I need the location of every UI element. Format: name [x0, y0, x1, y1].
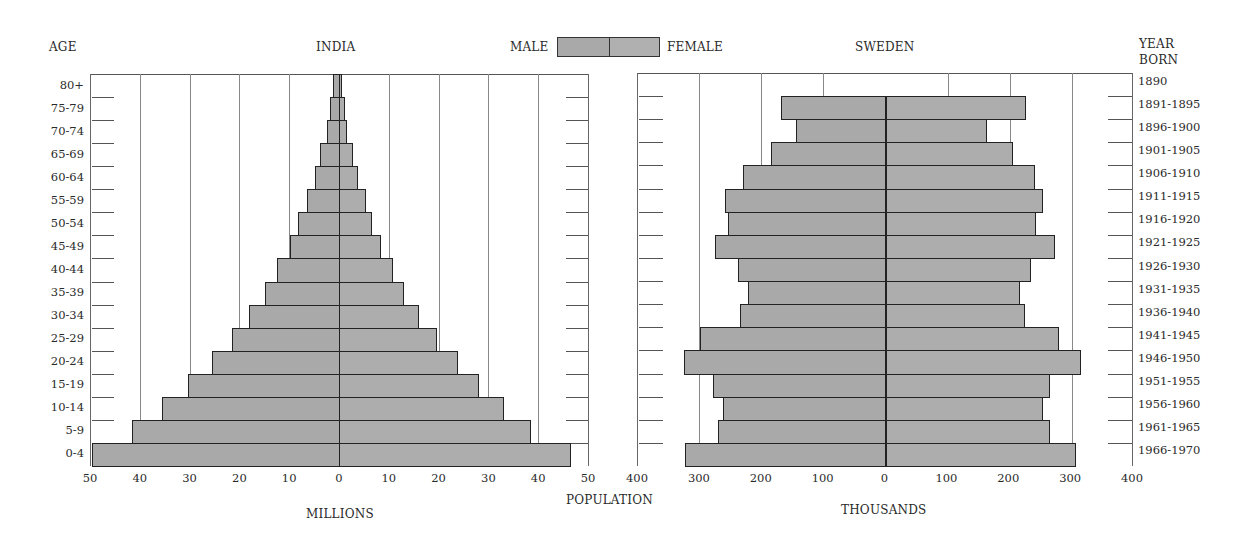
- x-axis-tick-label: 0: [335, 471, 342, 485]
- row-tick: [1108, 258, 1132, 259]
- row-tick: [92, 305, 114, 306]
- male-bar: [713, 374, 886, 398]
- male-bar: [781, 96, 886, 120]
- row-tick: [639, 304, 663, 305]
- female-bar: [339, 189, 366, 213]
- age-group-label: 80+: [24, 78, 84, 92]
- x-axis-tick-label: 50: [83, 471, 98, 485]
- female-bar: [886, 235, 1056, 259]
- age-group-label: 45-49: [24, 239, 84, 253]
- male-bar: [320, 143, 340, 167]
- female-bar: [339, 328, 437, 352]
- female-bar: [886, 96, 1026, 120]
- row-tick: [1108, 420, 1132, 421]
- row-tick: [1108, 189, 1132, 190]
- birth-year-label: 1946-1950: [1138, 351, 1200, 365]
- row-tick: [92, 420, 114, 421]
- row-tick: [566, 120, 588, 121]
- gridline: [1072, 73, 1073, 466]
- population-axis-label: POPULATION: [566, 493, 653, 507]
- row-tick: [566, 420, 588, 421]
- row-tick: [566, 212, 588, 213]
- birth-year-label: 1951-1955: [1138, 374, 1200, 388]
- age-group-label: 50-54: [24, 216, 84, 230]
- center-axis-line: [339, 74, 340, 466]
- birth-year-label: 1926-1930: [1138, 259, 1200, 273]
- row-tick: [639, 96, 663, 97]
- male-bar: [277, 258, 340, 282]
- age-group-label: 15-19: [24, 377, 84, 391]
- row-tick: [639, 420, 663, 421]
- row-tick: [639, 397, 663, 398]
- birth-year-label: 1911-1915: [1138, 189, 1200, 203]
- x-axis-tick-label: 30: [182, 471, 197, 485]
- female-bar: [339, 235, 381, 259]
- birth-year-label: 1956-1960: [1138, 397, 1200, 411]
- legend-male-swatch: [557, 37, 610, 57]
- age-group-label: 0-4: [24, 446, 84, 460]
- year-born-axis-title-line2: BORN: [1139, 53, 1178, 67]
- male-bar: [771, 142, 886, 166]
- male-bar: [723, 397, 886, 421]
- row-tick: [1108, 142, 1132, 143]
- plot-frame-top: [637, 73, 1132, 74]
- row-tick: [1108, 235, 1132, 236]
- age-group-label: 65-69: [24, 147, 84, 161]
- gridline: [140, 74, 141, 466]
- row-tick: [639, 119, 663, 120]
- row-tick: [566, 374, 588, 375]
- x-axis-tick-label: 100: [812, 471, 834, 485]
- row-tick: [92, 189, 114, 190]
- male-bar: [718, 420, 886, 444]
- row-tick: [639, 189, 663, 190]
- female-bar: [886, 189, 1044, 213]
- male-bar: [298, 212, 340, 236]
- legend-female-label: FEMALE: [667, 40, 723, 54]
- female-bar: [886, 327, 1059, 351]
- row-tick: [639, 165, 663, 166]
- x-axis-tick-label: 400: [1121, 471, 1143, 485]
- x-axis-tick-label: 10: [381, 471, 396, 485]
- male-bar: [715, 235, 886, 259]
- sweden-chart-title: SWEDEN: [855, 40, 914, 54]
- birth-year-label: 1936-1940: [1138, 305, 1200, 319]
- x-axis-tick-label: 40: [531, 471, 546, 485]
- male-bar: [92, 443, 340, 467]
- age-group-label: 30-34: [24, 308, 84, 322]
- female-bar: [886, 420, 1050, 444]
- female-bar: [339, 166, 358, 190]
- row-tick: [566, 328, 588, 329]
- plot-frame-right: [1132, 73, 1133, 466]
- row-tick: [92, 212, 114, 213]
- male-bar: [249, 305, 339, 329]
- birth-year-label: 1896-1900: [1138, 120, 1200, 134]
- male-bar: [307, 189, 340, 213]
- age-group-label: 35-39: [24, 285, 84, 299]
- age-group-label: 40-44: [24, 262, 84, 276]
- plot-frame-left: [637, 73, 638, 466]
- row-tick: [639, 350, 663, 351]
- birth-year-label: 1901-1905: [1138, 143, 1200, 157]
- row-tick: [1108, 350, 1132, 351]
- row-tick: [1108, 374, 1132, 375]
- birth-year-label: 1890: [1138, 74, 1167, 88]
- row-tick: [1108, 281, 1132, 282]
- x-axis-tick-label: 100: [935, 471, 957, 485]
- year-born-axis-title-line1: YEAR: [1139, 37, 1174, 51]
- male-bar: [232, 328, 339, 352]
- male-bar: [743, 165, 886, 189]
- female-bar: [886, 281, 1020, 305]
- age-group-label: 20-24: [24, 354, 84, 368]
- male-bar: [738, 258, 887, 282]
- x-axis-tick-label: 30: [481, 471, 496, 485]
- gridline: [538, 74, 539, 466]
- row-tick: [566, 282, 588, 283]
- age-group-label: 55-59: [24, 193, 84, 207]
- female-bar: [886, 304, 1025, 328]
- row-tick: [639, 443, 663, 444]
- row-tick: [92, 351, 114, 352]
- male-bar: [290, 235, 340, 259]
- female-bar: [886, 397, 1043, 421]
- birth-year-label: 1961-1965: [1138, 420, 1200, 434]
- row-tick: [92, 97, 114, 98]
